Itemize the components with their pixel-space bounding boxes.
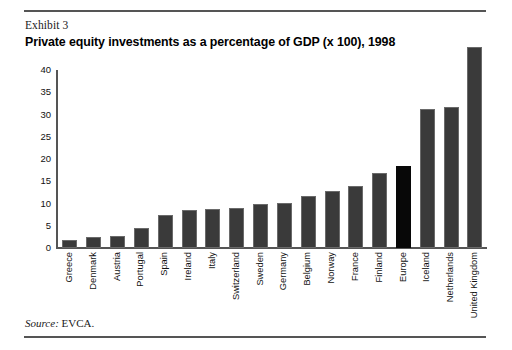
x-label-slot: United Kingdom (463, 250, 487, 328)
bar-netherlands[interactable] (444, 107, 459, 248)
x-label-slot: Sweden (249, 250, 273, 328)
bar-sweden[interactable] (253, 204, 268, 248)
x-axis-label-ireland: Ireland (184, 252, 193, 280)
y-axis-tick: 10 (25, 199, 51, 209)
x-label-slot: Germany (272, 250, 296, 328)
y-axis-tick: 30 (25, 110, 51, 120)
x-axis-label-netherlands: Netherlands (447, 252, 456, 302)
x-label-slot: France (344, 250, 368, 328)
bottom-divider (24, 336, 486, 338)
bar-denmark[interactable] (86, 237, 101, 248)
x-label-slot: Iceland (415, 250, 439, 328)
x-label-slot: Switzerland (225, 250, 249, 328)
bar-iceland[interactable] (420, 109, 435, 248)
x-axis-label-greece: Greece (65, 252, 74, 283)
x-axis-label-portugal: Portugal (137, 252, 146, 287)
chart-title: Private equity investments as a percenta… (25, 35, 395, 49)
y-axis-tick: 0 (25, 243, 51, 253)
bar-united-kingdom[interactable] (467, 47, 482, 248)
bar-europe[interactable] (396, 166, 411, 248)
y-axis-tick: 40 (25, 65, 51, 75)
bar-slot (415, 62, 439, 248)
source-prefix: Source: (25, 317, 59, 329)
source-value: EVCA. (62, 317, 95, 329)
x-axis-label-sweden: Sweden (256, 252, 265, 286)
x-axis-label-spain: Spain (161, 252, 170, 276)
x-axis-label-belgium: Belgium (304, 252, 313, 286)
bar-slot (106, 62, 130, 248)
x-label-slot: Ireland (177, 250, 201, 328)
chart-plot-area: 0510152025303540 (25, 62, 487, 252)
bar-finland[interactable] (372, 173, 387, 248)
y-axis-tick: 35 (25, 88, 51, 98)
x-label-slot: Portugal (129, 250, 153, 328)
source-note: Source: EVCA. (25, 317, 94, 329)
x-axis-label-finland: Finland (375, 252, 384, 283)
x-label-slot: Belgium (296, 250, 320, 328)
x-axis-label-denmark: Denmark (89, 252, 98, 290)
x-label-slot: Austria (106, 250, 130, 328)
bar-greece[interactable] (62, 240, 77, 248)
x-label-slot: Norway (320, 250, 344, 328)
bar-slot (392, 62, 416, 248)
x-axis-label-iceland: Iceland (423, 252, 432, 282)
y-axis-tick: 20 (25, 154, 51, 164)
bar-portugal[interactable] (134, 228, 149, 248)
bar-slot (82, 62, 106, 248)
x-axis-label-switzerland: Switzerland (232, 252, 241, 300)
bar-switzerland[interactable] (229, 208, 244, 248)
x-axis-label-italy: Italy (208, 252, 217, 269)
bar-slot (177, 62, 201, 248)
exhibit-container: Exhibit 3 Private equity investments as … (0, 0, 512, 350)
bar-france[interactable] (348, 186, 363, 248)
x-axis-label-france: France (351, 252, 360, 281)
x-label-slot: Europe (392, 250, 416, 328)
bar-slot (272, 62, 296, 248)
y-axis-tick: 5 (25, 221, 51, 231)
x-axis-label-norway: Norway (327, 252, 336, 284)
bar-slot (58, 62, 82, 248)
bar-germany[interactable] (277, 203, 292, 248)
bar-norway[interactable] (325, 191, 340, 248)
bar-austria[interactable] (110, 236, 125, 248)
bar-slot (201, 62, 225, 248)
x-axis-label-austria: Austria (113, 252, 122, 281)
x-label-slot: Italy (201, 250, 225, 328)
bar-slot (439, 62, 463, 248)
bar-series (58, 62, 487, 248)
x-label-slot: Finland (368, 250, 392, 328)
bar-belgium[interactable] (301, 196, 316, 248)
x-label-slot: Netherlands (439, 250, 463, 328)
top-divider (24, 10, 486, 12)
bar-slot (368, 62, 392, 248)
x-label-slot: Spain (153, 250, 177, 328)
bar-slot (129, 62, 153, 248)
bar-slot (463, 62, 487, 248)
bar-slot (249, 62, 273, 248)
bar-slot (153, 62, 177, 248)
bar-slot (225, 62, 249, 248)
y-axis-tick: 15 (25, 177, 51, 187)
x-axis-label-europe: Europe (399, 252, 408, 282)
x-axis-category-labels: GreeceDenmarkAustriaPortugalSpainIreland… (58, 250, 487, 328)
x-axis-label-germany: Germany (280, 252, 289, 290)
bar-spain[interactable] (158, 215, 173, 248)
bar-slot (296, 62, 320, 248)
exhibit-label: Exhibit 3 (25, 19, 68, 31)
bar-slot (344, 62, 368, 248)
y-axis-tick: 25 (25, 132, 51, 142)
x-axis-label-united-kingdom: United Kingdom (470, 252, 479, 318)
bar-slot (320, 62, 344, 248)
bar-ireland[interactable] (182, 210, 197, 248)
bar-italy[interactable] (205, 209, 220, 248)
y-axis-tick-labels: 0510152025303540 (25, 62, 51, 252)
